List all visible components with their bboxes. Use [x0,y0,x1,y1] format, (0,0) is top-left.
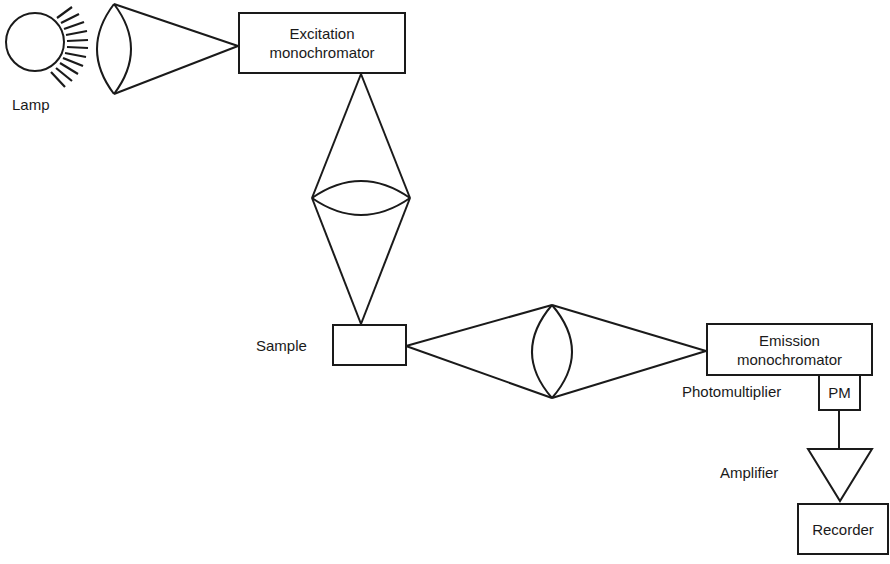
excitation-label-line1: Excitation [289,24,354,43]
focusing-lens-2 [312,74,410,324]
sample-label: Sample [256,337,307,354]
lamp-rays-icon [51,7,88,87]
excitation-monochromator-box: Excitation monochromator [238,12,406,74]
recorder-box: Recorder [797,503,889,555]
photomultiplier-box: PM [818,374,861,411]
excitation-label-line2: monochromator [269,43,374,62]
photomultiplier-label: Photomultiplier [682,383,781,400]
condenser-lens-1 [97,4,238,94]
amplifier-symbol-icon [808,449,872,501]
emission-label-line2: monochromator [737,350,842,369]
emission-label-line1: Emission [759,331,820,350]
collection-lens-3 [406,305,706,398]
amplifier-label: Amplifier [720,464,778,481]
sample-box [332,324,407,366]
lamp-bulb-icon [6,13,64,71]
emission-monochromator-box: Emission monochromator [706,323,873,376]
recorder-label: Recorder [812,520,874,539]
lamp-label: Lamp [12,96,50,113]
pm-box-label: PM [828,383,851,402]
